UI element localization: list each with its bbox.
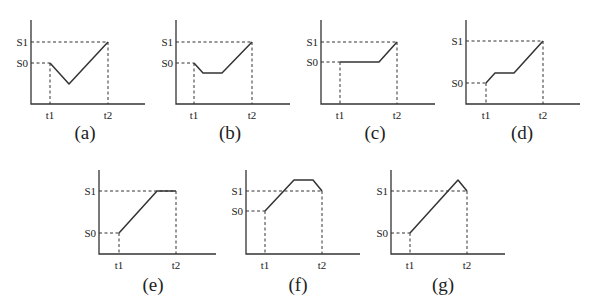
panel-a: S1S0t1t2(a)	[16, 20, 145, 144]
s0-label: S0	[451, 77, 463, 89]
panel-caption: (d)	[511, 122, 533, 144]
t2-label: t2	[172, 259, 181, 271]
axes	[31, 20, 145, 104]
panel-c: S1S0t1t2(c)	[306, 20, 435, 144]
t1-label: t1	[336, 109, 345, 121]
figure-grid: S1S0t1t2(a)S1S0t1t2(b)S1S0t1t2(c)S1S0t1t…	[0, 0, 589, 303]
s1-label: S1	[451, 35, 463, 47]
s1-label: S1	[306, 36, 318, 48]
response-curve	[410, 180, 467, 233]
t1-label: t1	[482, 109, 491, 121]
response-curve	[119, 191, 176, 233]
t1-label: t1	[261, 259, 270, 271]
s1-label: S1	[376, 185, 388, 197]
s1-label: S1	[16, 36, 28, 48]
panel-caption: (b)	[219, 122, 241, 144]
s1-label: S1	[231, 185, 243, 197]
s1-label: S1	[84, 185, 96, 197]
t1-label: t1	[46, 109, 55, 121]
s0-label: S0	[161, 57, 173, 69]
panel-e: S1S0t1t2(e)	[84, 170, 216, 296]
panel-f: S1S0t1t2(f)	[231, 170, 360, 296]
s0-label: S0	[84, 227, 96, 239]
panel-d: S1S0t1t2(d)	[451, 20, 580, 144]
s0-label: S0	[376, 227, 388, 239]
t2-label: t2	[248, 109, 257, 121]
panel-caption: (c)	[364, 122, 385, 144]
t1-label: t1	[115, 259, 124, 271]
panel-caption: (e)	[142, 274, 163, 296]
response-curve	[486, 41, 543, 83]
s0-label: S0	[306, 56, 318, 68]
t2-label: t2	[104, 109, 113, 121]
t2-label: t2	[539, 109, 548, 121]
panel-g: S1S0t1t2(g)	[376, 170, 505, 296]
panel-caption: (g)	[432, 274, 454, 296]
panel-caption: (a)	[74, 122, 95, 144]
response-curve	[194, 42, 252, 73]
response-curve	[340, 42, 397, 62]
s0-label: S0	[16, 57, 28, 69]
axes	[246, 170, 360, 254]
response-curve	[265, 180, 322, 211]
t1-label: t1	[406, 259, 415, 271]
axes	[99, 170, 216, 254]
s0-label: S0	[231, 205, 243, 217]
axes	[391, 170, 505, 254]
s1-label: S1	[161, 36, 173, 48]
t2-label: t2	[393, 109, 402, 121]
t1-label: t1	[190, 109, 199, 121]
panel-caption: (f)	[289, 274, 308, 296]
response-curve	[50, 42, 108, 84]
panel-b: S1S0t1t2(b)	[161, 20, 290, 144]
t2-label: t2	[463, 259, 472, 271]
t2-label: t2	[318, 259, 327, 271]
